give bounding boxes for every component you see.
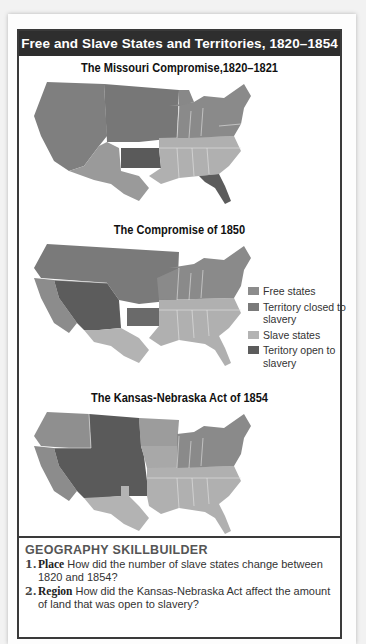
- map-compromise-1850: [29, 238, 269, 373]
- question-2: 2. RegionHow did the Kansas-Nebraska Act…: [25, 585, 335, 611]
- legend-swatch: [248, 303, 259, 311]
- geography-skillbuilder: GEOGRAPHY SKILLBUILDER 1. PlaceHow did t…: [25, 543, 335, 611]
- legend-item-territory-open: Teritory open to slavery: [248, 344, 348, 369]
- map-title-kansas-nebraska: The Kansas-Nebraska Act of 1854: [32, 391, 327, 405]
- legend-item-free-states: Free states: [248, 285, 348, 298]
- section-divider: [19, 536, 340, 538]
- feature-title: Free and Slave States and Territories, 1…: [19, 31, 340, 56]
- map-legend: Free states Territory closed to slavery …: [248, 285, 348, 372]
- legend-item-slave-states: Slave states: [248, 329, 348, 342]
- skillbuilder-heading: GEOGRAPHY SKILLBUILDER: [25, 543, 335, 557]
- map-title-missouri-compromise: The Missouri Compromise,1820–1821: [32, 61, 327, 75]
- legend-swatch: [248, 346, 259, 354]
- legend-swatch: [248, 287, 259, 295]
- map-title-compromise-1850: The Compromise of 1850: [32, 223, 327, 237]
- map-missouri-compromise: [29, 76, 269, 211]
- legend-swatch: [248, 331, 259, 339]
- map-feature-box: Free and Slave States and Territories, 1…: [17, 29, 342, 639]
- legend-item-territory-closed: Territory closed to slavery: [248, 301, 348, 326]
- question-1: 1. PlaceHow did the number of slave stat…: [25, 558, 335, 584]
- map-kansas-nebraska: [29, 406, 269, 541]
